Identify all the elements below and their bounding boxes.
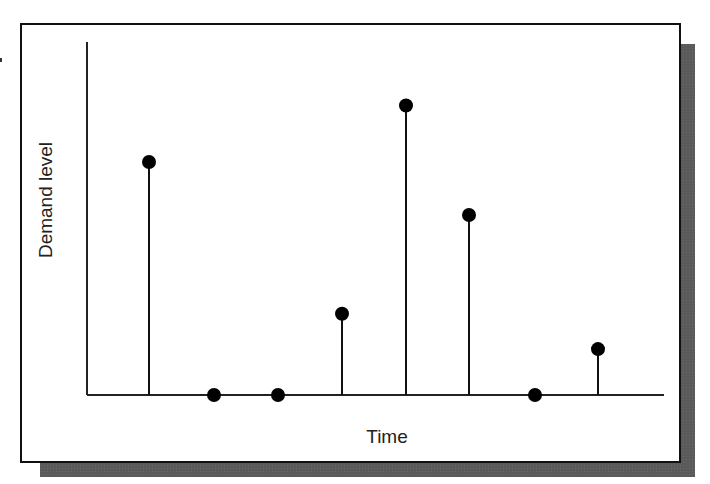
stem-point [207,388,221,402]
stem-point [399,99,413,395]
y-axis-label: Demand level [35,142,57,258]
stem-marker-dot [462,208,476,222]
x-axis-label: Time [366,426,408,448]
stem-marker-dot [591,342,605,356]
stem-marker-dot [399,99,413,113]
stem-point [591,342,605,395]
stem-series [142,99,605,402]
stem-marker-dot [528,388,542,402]
stem-marker-dot [142,155,156,169]
stem-marker-dot [207,388,221,402]
stem-point [271,388,285,402]
stem-marker-dot [271,388,285,402]
stem-marker-dot [335,307,349,321]
stem-point [528,388,542,402]
stem-plot [0,0,710,484]
stem-point [142,155,156,395]
stem-point [335,307,349,395]
stem-point [462,208,476,395]
